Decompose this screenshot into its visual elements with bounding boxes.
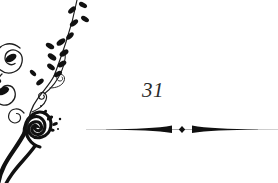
divider-left-spear [106,126,172,133]
divider-right-spear [192,126,258,133]
decorative-page: 31 [0,0,278,183]
page-number: 31 [0,78,278,102]
decorative-divider [86,121,278,138]
divider-center-diamond [179,126,185,133]
